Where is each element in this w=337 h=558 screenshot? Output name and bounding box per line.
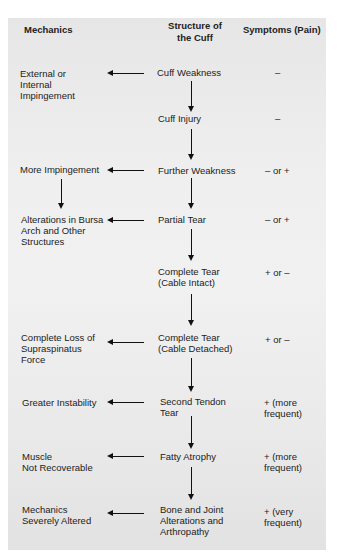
structure-complete-tear-cable-detached: Complete Tear (Cable Detached): [158, 332, 232, 354]
mechanics-greater-instability: Greater Instability: [22, 397, 96, 408]
header-structure: Structure of the Cuff: [152, 20, 238, 44]
symptoms-complete-tear-cable-intact: + or –: [265, 267, 290, 278]
left-arrow-icon: [112, 73, 144, 74]
structure-second-tendon-tear: Second Tendon Tear: [160, 396, 226, 418]
left-arrow-icon: [112, 170, 144, 171]
structure-fatty-atrophy: Fatty Atrophy: [160, 451, 216, 462]
mechanics-severely-altered: Mechanics Severely Altered: [22, 504, 91, 526]
down-arrow-icon: [191, 178, 192, 204]
down-arrow-icon: [191, 416, 192, 444]
left-arrow-icon: [112, 513, 144, 514]
left-arrow-icon: [112, 402, 144, 403]
structure-further-weakness: Further Weakness: [158, 165, 235, 176]
down-arrow-icon: [191, 358, 192, 387]
symptoms-bone-joint-alterations: + (very frequent): [264, 506, 302, 528]
mechanics-complete-loss-supraspinatus: Complete Loss of Supraspinatus Force: [21, 332, 95, 365]
left-arrow-icon: [112, 456, 144, 457]
structure-cuff-injury: Cuff Injury: [158, 113, 201, 124]
down-arrow-icon: [191, 467, 192, 495]
symptoms-second-tendon-tear: + (more frequent): [264, 397, 302, 419]
symptoms-cuff-injury: –: [275, 113, 280, 124]
left-arrow-icon: [112, 220, 144, 221]
structure-partial-tear: Partial Tear: [158, 214, 206, 225]
symptoms-further-weakness: – or +: [265, 165, 290, 176]
symptoms-partial-tear: – or +: [265, 214, 290, 225]
header-symptoms: Symptoms (Pain): [243, 24, 321, 36]
down-arrow-icon: [191, 81, 192, 107]
structure-cuff-weakness: Cuff Weakness: [157, 67, 221, 78]
mechanics-more-impingement: More Impingement: [20, 164, 99, 175]
structure-bone-joint-alterations: Bone and Joint Alterations and Arthropat…: [160, 504, 223, 537]
mechanics-external-internal-impingement: External or Internal Impingement: [20, 68, 75, 101]
symptoms-complete-tear-cable-detached: + or –: [265, 334, 290, 345]
structure-complete-tear-cable-intact: Complete Tear (Cable Intact): [158, 266, 220, 288]
left-arrow-icon: [112, 342, 144, 343]
symptoms-cuff-weakness: –: [275, 67, 280, 78]
header-mechanics: Mechanics: [24, 24, 73, 36]
down-arrow-icon: [191, 229, 192, 256]
mechanics-alterations-bursa-arch: Alterations in Bursa Arch and Other Stru…: [21, 214, 103, 247]
down-arrow-icon: [191, 294, 192, 321]
symptoms-fatty-atrophy: + (more frequent): [264, 451, 302, 473]
mechanics-muscle-not-recoverable: Muscle Not Recoverable: [22, 451, 93, 473]
down-arrow-icon: [191, 129, 192, 155]
down-arrow-icon: [61, 179, 62, 204]
